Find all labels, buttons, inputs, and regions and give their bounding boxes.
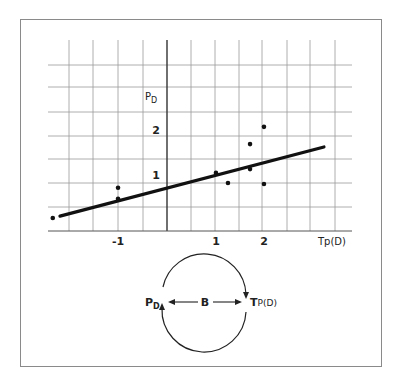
arrowhead-up-icon <box>159 303 165 310</box>
data-point <box>50 216 55 221</box>
x-tick-label: 2 <box>260 235 268 248</box>
grid <box>48 40 352 231</box>
bottom-arc <box>162 308 246 352</box>
y-axis-label: PD <box>145 91 157 105</box>
data-point <box>248 142 253 147</box>
y-tick-label: 2 <box>152 124 160 137</box>
y-tick-labels: 1 2 PD <box>145 91 160 182</box>
x-tick-label: -1 <box>112 235 124 248</box>
x-tick-label: 1 <box>212 235 220 248</box>
y-tick-label: 1 <box>152 169 160 182</box>
x-axis-label: Tp(D) <box>317 236 346 247</box>
data-point <box>116 186 121 191</box>
data-point <box>248 167 253 172</box>
data-point <box>262 125 267 130</box>
arrowhead-left-icon <box>168 299 175 305</box>
diagram-label-b: B <box>201 296 209 309</box>
x-tick-labels: -1 1 2 Tp(D) <box>112 235 346 248</box>
data-point <box>226 181 231 186</box>
chart: -1 1 2 Tp(D) 1 2 PD PD B TP(D) <box>0 0 402 386</box>
cycle-diagram: PD B TP(D) <box>145 254 277 352</box>
top-arc <box>163 254 246 294</box>
diagram-label-pd: PD <box>145 296 160 311</box>
data-point <box>116 197 121 202</box>
data-point <box>214 171 219 176</box>
arrowhead-down-icon <box>243 292 249 299</box>
arrowhead-right-icon <box>235 299 242 305</box>
data-point <box>262 182 267 187</box>
diagram-label-tpd: TP(D) <box>250 296 277 309</box>
regression-line <box>60 147 324 216</box>
